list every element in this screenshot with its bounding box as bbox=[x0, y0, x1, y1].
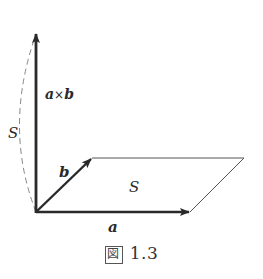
figure-number: 1.3 bbox=[130, 243, 159, 263]
arc-area-label: S bbox=[8, 124, 18, 142]
vector-b-label: b bbox=[59, 163, 70, 181]
parallelogram-outline bbox=[92, 158, 244, 212]
cross-product-label: a×b bbox=[45, 86, 74, 102]
dashed-arc bbox=[19, 40, 36, 212]
figure-caption: 図1.3 bbox=[0, 243, 263, 264]
cross-product-diagram: a×b b a S S bbox=[0, 0, 263, 279]
figure-kanji-glyph: 図 bbox=[105, 246, 123, 264]
vector-a-label: a bbox=[108, 218, 118, 236]
parallelogram-area-label: S bbox=[129, 178, 139, 196]
